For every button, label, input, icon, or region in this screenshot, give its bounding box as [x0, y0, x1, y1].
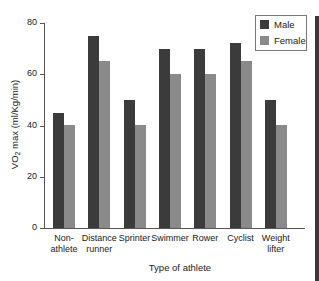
y-tick — [40, 177, 44, 178]
bar-male — [159, 49, 170, 228]
y-tick-label: 80 — [17, 17, 37, 27]
legend-item-male: Male — [256, 16, 306, 32]
x-axis-title: Type of athlete — [110, 262, 250, 273]
plot-area — [45, 23, 305, 228]
y-tick-label: 0 — [17, 222, 37, 232]
bar-female — [64, 125, 75, 228]
bar-male — [88, 36, 99, 228]
bar-male — [124, 100, 135, 228]
y-tick — [40, 126, 44, 127]
bar-male — [230, 43, 241, 228]
x-tick-label: Weightlifter — [251, 233, 301, 255]
y-tick-label: 20 — [17, 171, 37, 181]
y-tick-label: 40 — [17, 120, 37, 130]
female-swatch-icon — [260, 36, 269, 45]
bar-male — [194, 49, 205, 228]
male-swatch-icon — [260, 20, 269, 29]
edge-divider — [315, 16, 319, 281]
bar-female — [99, 61, 110, 228]
bar-female — [241, 61, 252, 228]
y-tick — [40, 74, 44, 75]
bar-male — [265, 100, 276, 228]
bar-female — [276, 125, 287, 228]
legend-item-female: Female — [256, 32, 306, 48]
bar-female — [205, 74, 216, 228]
bar-male — [53, 113, 64, 228]
x-axis — [44, 228, 305, 229]
y-tick — [40, 23, 44, 24]
bar-female — [170, 74, 181, 228]
y-tick-label: 60 — [17, 68, 37, 78]
bar-female — [135, 125, 146, 228]
legend: Male Female — [255, 15, 307, 51]
